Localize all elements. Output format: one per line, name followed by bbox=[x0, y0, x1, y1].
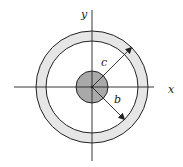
coax-diagram: y x c b bbox=[0, 0, 183, 167]
center-point bbox=[91, 86, 94, 89]
x-axis-label: x bbox=[168, 83, 175, 96]
dimension-label-b: b bbox=[114, 93, 121, 106]
dimension-arrow-c bbox=[92, 47, 132, 87]
y-axis-label: y bbox=[80, 8, 88, 21]
dimension-label-c: c bbox=[101, 56, 107, 69]
